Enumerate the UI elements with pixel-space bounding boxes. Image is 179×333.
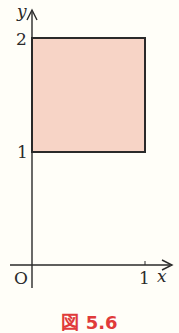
figure-caption: 図 5.6	[0, 314, 179, 332]
origin-label: O	[14, 270, 28, 287]
x-tick-label-1: 1	[139, 270, 150, 287]
y-tick-label-2: 2	[16, 31, 27, 48]
y-axis-label: y	[17, 3, 27, 20]
y-tick-label-1: 1	[17, 144, 28, 161]
x-axis-label: x	[157, 268, 167, 285]
shaded-region	[32, 38, 145, 152]
